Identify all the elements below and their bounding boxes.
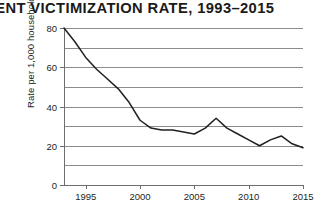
x-tick — [86, 185, 87, 189]
x-tick-label: 2010 — [238, 191, 259, 202]
y-tick-label: 40 — [46, 101, 57, 112]
x-tick — [194, 185, 195, 189]
y-tick-label: 0 — [52, 180, 57, 191]
y-tick-label: 20 — [46, 140, 57, 151]
y-tick — [60, 185, 64, 186]
chart-title: OLENT VICTIMIZATION RATE, 1993–2015 — [0, 0, 323, 16]
x-tick-label: 2015 — [292, 191, 313, 202]
x-tick — [249, 185, 250, 189]
x-tick — [140, 185, 141, 189]
x-axis-line — [64, 185, 303, 186]
x-tick-label: 1995 — [75, 191, 96, 202]
y-tick-label: 80 — [46, 23, 57, 34]
x-tick-label: 2005 — [184, 191, 205, 202]
chart-figure: OLENT VICTIMIZATION RATE, 1993–2015 Rate… — [0, 0, 323, 219]
data-series-line — [64, 28, 303, 185]
y-axis-title: Rate per 1,000 households — [25, 0, 36, 108]
plot-area: 020406080 19952000200520102015 — [64, 28, 303, 185]
x-tick-label: 2000 — [129, 191, 150, 202]
y-tick-label: 60 — [46, 62, 57, 73]
x-tick — [303, 185, 304, 189]
